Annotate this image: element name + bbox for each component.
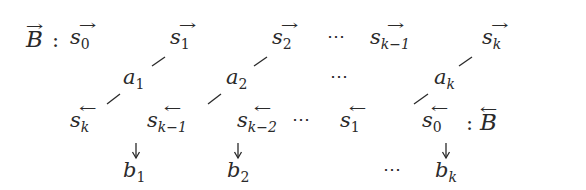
ellipsis-middle: ⋯ xyxy=(330,67,350,85)
node-s1-forward: s→1 xyxy=(170,27,190,48)
node-sk-forward: s→k xyxy=(482,27,501,48)
node-s0-forward: s→0 xyxy=(70,27,90,48)
node-sk-1-backward: s←k−1 xyxy=(147,110,187,131)
ellipsis-outputs: ⋯ xyxy=(383,160,403,178)
node-sk-2-backward: s←k−2 xyxy=(237,110,277,131)
backward-B-label: ←B xyxy=(480,111,497,134)
slash-sk1-a2 xyxy=(208,94,221,104)
node-sk-backward: s←k xyxy=(70,110,89,131)
node-b1: b1 xyxy=(123,160,145,181)
node-bk: bk xyxy=(435,160,457,181)
backward-colon: : xyxy=(466,113,473,134)
down-arrow-bk xyxy=(443,143,450,158)
node-s2-forward: s→2 xyxy=(272,27,292,48)
node-sk-1-forward: s→k−1 xyxy=(370,27,410,48)
slash-ak-sk xyxy=(459,57,472,66)
slash-s1-ak xyxy=(414,94,428,104)
node-b2: b2 xyxy=(227,160,249,181)
slash-sk-a1 xyxy=(107,94,120,104)
down-arrow-b2 xyxy=(235,143,242,158)
node-ak: ak xyxy=(434,67,455,88)
slash-a2-s2 xyxy=(254,57,267,66)
node-s1-backward: s←1 xyxy=(340,110,360,131)
node-s0-backward: s←0 xyxy=(422,110,442,131)
slash-a1-s1 xyxy=(152,57,165,66)
forward-B-label: →B xyxy=(26,28,43,51)
ellipsis-bottom: ⋯ xyxy=(292,110,312,128)
sequence-diagram: →B : s→0 s→1 s→2 ⋯ s→k−1 s→k a1 a2 ⋯ ak … xyxy=(0,0,586,190)
node-a1: a1 xyxy=(123,67,144,88)
forward-colon: : xyxy=(52,30,59,51)
node-a2: a2 xyxy=(226,67,247,88)
down-arrow-b1 xyxy=(133,143,140,158)
ellipsis-top: ⋯ xyxy=(327,27,347,45)
